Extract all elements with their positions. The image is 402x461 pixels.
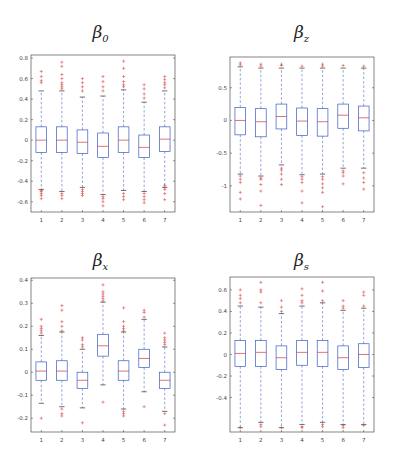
outlier-marker: [362, 65, 365, 68]
outlier-marker: [81, 85, 84, 88]
outlier-marker: [300, 294, 303, 297]
outlier-marker: [40, 194, 43, 197]
iqr-box: [77, 130, 88, 154]
outlier-marker: [362, 188, 365, 191]
x-tick-label: 3: [280, 217, 284, 223]
outlier-marker: [321, 289, 324, 292]
outlier-marker: [163, 424, 166, 427]
outlier-marker: [280, 306, 283, 309]
boxplot-beta-s: -0.4-0.200.20.40.61234567: [201, 230, 402, 461]
outlier-marker: [81, 81, 84, 84]
box-1: [235, 288, 246, 429]
outlier-marker: [300, 299, 303, 302]
x-tick-label: 3: [280, 437, 284, 443]
outlier-marker: [280, 183, 283, 186]
iqr-box: [317, 341, 328, 367]
x-tick-label: 1: [239, 217, 243, 223]
outlier-marker: [259, 183, 262, 186]
outlier-marker: [239, 288, 242, 291]
outlier-marker: [101, 283, 104, 286]
x-tick-label: 4: [101, 437, 105, 443]
outlier-marker: [342, 171, 345, 174]
iqr-box: [57, 361, 68, 381]
iqr-box: [358, 344, 369, 368]
y-tick-label: 0.4: [19, 96, 28, 102]
iqr-box: [358, 106, 369, 131]
y-tick-label: 0.5: [218, 85, 227, 91]
outlier-marker: [239, 181, 242, 184]
outlier-marker: [122, 320, 125, 323]
outlier-marker: [239, 197, 242, 200]
outlier-marker: [259, 425, 262, 428]
outlier-marker: [122, 198, 125, 201]
outlier-marker: [362, 304, 365, 307]
outlier-marker: [321, 63, 324, 66]
y-tick-label: 0.2: [19, 117, 28, 123]
outlier-marker: [239, 178, 242, 181]
box-6: [338, 299, 349, 429]
outlier-marker: [342, 64, 345, 67]
boxplot-beta-x: -0.2-0.100.10.20.30.41234567: [0, 230, 201, 461]
outlier-marker: [163, 412, 166, 415]
y-tick-label: 0.6: [218, 287, 227, 293]
iqr-box: [297, 108, 308, 135]
x-tick-label: 3: [81, 217, 85, 223]
outlier-marker: [122, 195, 125, 198]
y-tick-label: 0.6: [19, 76, 28, 82]
outlier-marker: [101, 204, 104, 207]
outlier-marker: [122, 60, 125, 63]
outlier-marker: [163, 75, 166, 78]
outlier-marker: [143, 309, 146, 312]
outlier-marker: [300, 189, 303, 192]
outlier-marker: [163, 198, 166, 201]
outlier-marker: [163, 188, 166, 191]
iqr-box: [317, 109, 328, 136]
outlier-marker: [280, 178, 283, 181]
x-tick-label: 5: [122, 217, 126, 223]
outlier-marker: [259, 281, 262, 284]
outlier-marker: [163, 192, 166, 195]
x-tick-label: 6: [142, 437, 146, 443]
outlier-marker: [143, 195, 146, 198]
y-tick-label: 0: [25, 369, 29, 375]
x-tick-label: 4: [300, 217, 304, 223]
outlier-marker: [60, 194, 63, 197]
x-tick-label: 1: [40, 437, 44, 443]
outlier-marker: [321, 182, 324, 185]
outlier-marker: [60, 407, 63, 410]
outlier-marker: [143, 315, 146, 318]
outlier-marker: [239, 426, 242, 429]
iqr-box: [36, 127, 47, 153]
iqr-box: [98, 334, 109, 356]
outlier-marker: [239, 301, 242, 304]
box-4: [297, 287, 308, 429]
outlier-marker: [60, 61, 63, 64]
outlier-marker: [122, 67, 125, 70]
outlier-marker: [362, 171, 365, 174]
outlier-marker: [239, 294, 242, 297]
x-tick-label: 7: [362, 217, 366, 223]
outlier-marker: [300, 181, 303, 184]
y-tick-label: 0.3: [19, 300, 28, 306]
iqr-box: [256, 341, 267, 367]
outlier-marker: [300, 178, 303, 181]
outlier-marker: [101, 85, 104, 88]
outlier-marker: [122, 306, 125, 309]
outlier-marker: [163, 332, 166, 335]
outlier-marker: [60, 81, 63, 84]
y-tick-label: -0.2: [17, 158, 28, 164]
outlier-marker: [259, 301, 262, 304]
outlier-marker: [321, 186, 324, 189]
outlier-marker: [81, 336, 84, 339]
outlier-marker: [143, 405, 146, 408]
outlier-marker: [300, 65, 303, 68]
box-4: [98, 75, 109, 207]
x-tick-label: 4: [101, 217, 105, 223]
outlier-marker: [300, 201, 303, 204]
box-2: [57, 61, 68, 201]
outlier-marker: [239, 61, 242, 64]
y-tick-label: -1: [222, 183, 227, 189]
x-tick-label: 3: [81, 437, 85, 443]
outlier-marker: [60, 77, 63, 80]
outlier-marker: [342, 174, 345, 177]
